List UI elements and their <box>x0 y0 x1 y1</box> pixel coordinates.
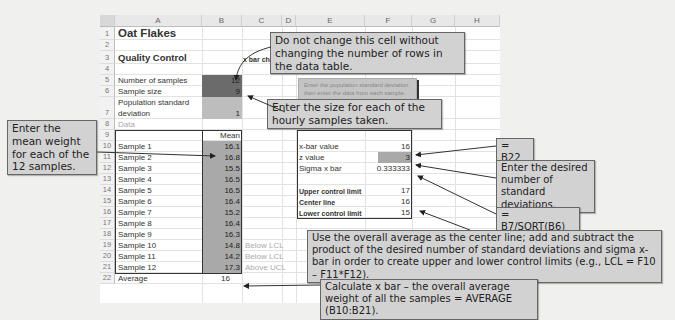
callout-enter-mean: Enter the mean weight for each of the 12… <box>7 120 97 175</box>
row-header-20[interactable]: 20 <box>100 251 115 262</box>
row-header-12[interactable]: 12 <box>100 163 115 174</box>
row-header-16[interactable]: 16 <box>100 207 115 218</box>
sigma-label[interactable]: Sigma x bar <box>296 163 365 174</box>
sample-label[interactable]: Sample 5 <box>115 185 202 196</box>
row-header-1[interactable]: 1 <box>100 27 115 40</box>
cell-a6-label[interactable]: Sample size <box>115 86 202 97</box>
gridline <box>115 130 500 141</box>
sample-flag[interactable]: Below LCL <box>242 240 296 251</box>
sample-mean[interactable]: 16.8 <box>202 152 242 163</box>
row-header-4[interactable]: 4 <box>100 64 115 75</box>
row-header-18[interactable]: 18 <box>100 229 115 240</box>
row-header-15[interactable]: 15 <box>100 196 115 207</box>
column-header-f[interactable]: F <box>365 15 412 27</box>
sample-label[interactable]: Sample 4 <box>115 174 202 185</box>
sample-label[interactable]: Sample 11 <box>115 251 202 262</box>
sample-mean[interactable]: 17.3 <box>202 262 242 273</box>
sample-flag[interactable]: Above UCL <box>242 262 296 273</box>
z-value[interactable]: 3 <box>378 152 412 163</box>
sample-label[interactable]: Sample 3 <box>115 163 202 174</box>
cell-b6-sample-size[interactable]: 9 <box>202 86 242 97</box>
column-header-h[interactable]: H <box>455 15 500 27</box>
xbar-label[interactable]: x-bar value <box>296 141 365 152</box>
column-header-d[interactable]: D <box>282 15 296 27</box>
sample-mean[interactable]: 16.5 <box>202 185 242 196</box>
lcl-value[interactable]: 15 <box>365 207 412 218</box>
column-header-a[interactable]: A <box>115 15 202 27</box>
row-header-7[interactable]: 7 <box>100 97 115 119</box>
column-header-b[interactable]: B <box>202 15 242 27</box>
row-header-2[interactable]: 2 <box>100 40 115 51</box>
sample-mean[interactable]: 16.4 <box>202 196 242 207</box>
sample-mean[interactable]: 16.3 <box>202 229 242 240</box>
sample-label[interactable]: Sample 8 <box>115 218 202 229</box>
row-header-11[interactable]: 11 <box>100 152 115 163</box>
row-header-10[interactable]: 10 <box>100 141 115 152</box>
xbar-value[interactable]: 16 <box>365 141 412 152</box>
cell-a7-label-line1[interactable]: Population standard <box>115 97 202 108</box>
column-header-c[interactable]: C <box>242 15 282 27</box>
cell-a22-average-label[interactable]: Average <box>115 273 202 284</box>
sample-mean[interactable]: 16.1 <box>202 141 242 152</box>
cell-b7-pop-sd[interactable]: 1 <box>202 97 242 119</box>
ucl-value[interactable]: 17 <box>365 185 412 196</box>
center-line-value[interactable]: 16 <box>365 196 412 207</box>
column-header-g[interactable]: G <box>412 15 455 27</box>
sample-mean[interactable]: 16.4 <box>202 218 242 229</box>
cell-a3-subtitle[interactable]: Quality Control <box>115 51 202 64</box>
cell-a7-label-line2: deviation <box>115 108 202 119</box>
callout-enter-size: Enter the size for each of the hourly sa… <box>267 99 442 129</box>
row-header-6[interactable]: 6 <box>100 86 115 97</box>
lcl-label[interactable]: Lower control limit <box>296 207 376 218</box>
row-header-5[interactable]: 5 <box>100 75 115 86</box>
row-header-3[interactable]: 3 <box>100 51 115 64</box>
sample-label[interactable]: Sample 1 <box>115 141 202 152</box>
callout-center-line: Use the overall average as the center li… <box>307 230 662 283</box>
z-label[interactable]: z value <box>296 152 365 163</box>
cell-a1-title[interactable]: Oat Flakes <box>115 27 202 40</box>
callout-enter-z: Enter the desired number of standard dev… <box>496 160 595 213</box>
cell-b9-mean-header[interactable]: Mean <box>202 130 242 141</box>
sample-label[interactable]: Sample 7 <box>115 207 202 218</box>
sample-mean[interactable]: 16.5 <box>202 174 242 185</box>
center-line-label[interactable]: Center line <box>296 196 376 207</box>
cell-a8-data-label[interactable]: Data <box>115 119 202 130</box>
row-header-21[interactable]: 21 <box>100 262 115 273</box>
sample-mean[interactable]: 14.8 <box>202 240 242 251</box>
sample-label[interactable]: Sample 9 <box>115 229 202 240</box>
sample-label[interactable]: Sample 6 <box>115 196 202 207</box>
sigma-value[interactable]: 0.333333 <box>365 163 412 174</box>
row-header-22[interactable]: 22 <box>100 273 115 284</box>
row-header-19[interactable]: 19 <box>100 240 115 251</box>
row-header-14[interactable]: 14 <box>100 185 115 196</box>
row-header-8[interactable]: 8 <box>100 119 115 130</box>
column-header-e[interactable]: E <box>296 15 365 27</box>
cell-a5-label[interactable]: Number of samples <box>115 75 202 86</box>
row-header-17[interactable]: 17 <box>100 218 115 229</box>
callout-do-not-change: Do not change this cell without changing… <box>270 32 465 74</box>
sample-mean[interactable]: 14.2 <box>202 251 242 262</box>
callout-xbar-calc: Calculate x bar – the overall average we… <box>320 279 538 320</box>
row-header-9[interactable]: 9 <box>100 130 115 141</box>
cell-b22-average-value[interactable]: 16 <box>202 273 232 284</box>
sample-label[interactable]: Sample 10 <box>115 240 202 251</box>
sample-mean[interactable]: 15.5 <box>202 163 242 174</box>
ucl-label[interactable]: Upper control limit <box>296 185 376 196</box>
select-all-corner[interactable] <box>100 15 115 27</box>
row-header-13[interactable]: 13 <box>100 174 115 185</box>
sample-flag[interactable]: Below LCL <box>242 251 296 262</box>
sample-label[interactable]: Sample 12 <box>115 262 202 273</box>
sample-label[interactable]: Sample 2 <box>115 152 202 163</box>
sample-mean[interactable]: 15.2 <box>202 207 242 218</box>
cell-b5-num-samples[interactable]: 12 <box>202 75 242 86</box>
